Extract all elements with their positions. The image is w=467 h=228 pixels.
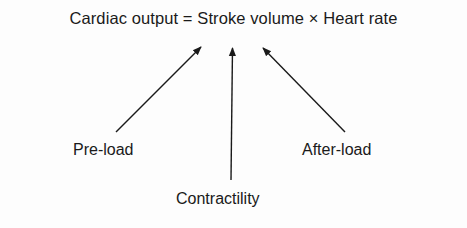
contractility-label: Contractility [176, 190, 260, 208]
afterload-label: After-load [302, 141, 371, 159]
afterload-arrow-icon [263, 48, 345, 132]
preload-arrow-icon [116, 47, 201, 132]
preload-label: Pre-load [73, 141, 133, 159]
contractility-arrow-icon [231, 48, 233, 180]
cardiac-output-diagram: Cardiac output = Stroke volume × Heart r… [0, 0, 467, 228]
